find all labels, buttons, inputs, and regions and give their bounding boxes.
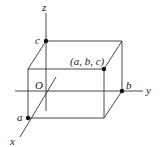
origin-label: O bbox=[35, 79, 43, 91]
point-b bbox=[120, 89, 124, 93]
point-abc bbox=[102, 67, 106, 71]
point-c bbox=[44, 39, 48, 43]
box-edge bbox=[104, 41, 122, 69]
z-axis-label: z bbox=[41, 1, 47, 13]
y-axis-label: y bbox=[145, 84, 151, 96]
c-label: c bbox=[35, 34, 40, 46]
corner-label: (a, b, c) bbox=[70, 55, 105, 68]
box-edge bbox=[104, 91, 122, 118]
a-label: a bbox=[17, 111, 23, 123]
point-a bbox=[26, 116, 30, 120]
b-label: b bbox=[126, 79, 132, 91]
box-diagram: z y x O c a b (a, b, c) bbox=[0, 0, 164, 147]
x-axis-label: x bbox=[9, 135, 15, 147]
